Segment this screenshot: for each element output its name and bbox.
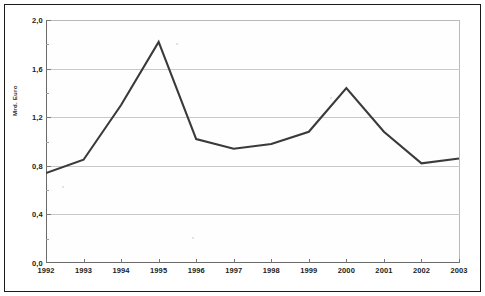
x-axis-tick-label: 1999 bbox=[300, 266, 317, 275]
x-axis-tick-label: 1997 bbox=[225, 266, 242, 275]
line-chart-plot bbox=[46, 20, 460, 263]
x-axis-tick-label: 1994 bbox=[113, 266, 130, 275]
x-axis-tick-label: 2001 bbox=[375, 266, 392, 275]
x-axis-tick-label: 2003 bbox=[450, 266, 467, 275]
y-axis-tick-label: 1,6 bbox=[3, 64, 43, 73]
x-axis-tick-label: 1998 bbox=[263, 266, 280, 275]
x-ticks-group bbox=[47, 259, 460, 263]
x-axis-tick-label: 1995 bbox=[150, 266, 167, 275]
x-axis-tick-labels: 1992199319941995199619971998199920002001… bbox=[46, 266, 460, 284]
scan-speck bbox=[62, 186, 64, 188]
x-axis-tick-label: 1992 bbox=[37, 266, 54, 275]
y-axis-tick-label: 0,8 bbox=[3, 161, 43, 170]
y-axis-tick-label: 2,0 bbox=[3, 16, 43, 25]
chart-figure: 0,00,40,81,21,62,0 199219931994199519961… bbox=[0, 0, 485, 296]
data-series-line bbox=[46, 42, 459, 173]
x-axis-tick-label: 1993 bbox=[75, 266, 92, 275]
y-axis-tick-label: 1,2 bbox=[3, 113, 43, 122]
minor-ticks-group bbox=[46, 45, 49, 239]
y-axis-tick-label: 0,4 bbox=[3, 210, 43, 219]
scan-speck bbox=[192, 237, 194, 239]
scan-speck bbox=[176, 43, 178, 45]
x-axis-tick-label: 2000 bbox=[338, 266, 355, 275]
y-axis-title: Mrd. Euro bbox=[11, 56, 23, 116]
gridlines-group bbox=[46, 69, 460, 215]
x-axis-tick-label: 1996 bbox=[188, 266, 205, 275]
scan-speck bbox=[330, 97, 332, 99]
x-axis-tick-label: 2002 bbox=[413, 266, 430, 275]
